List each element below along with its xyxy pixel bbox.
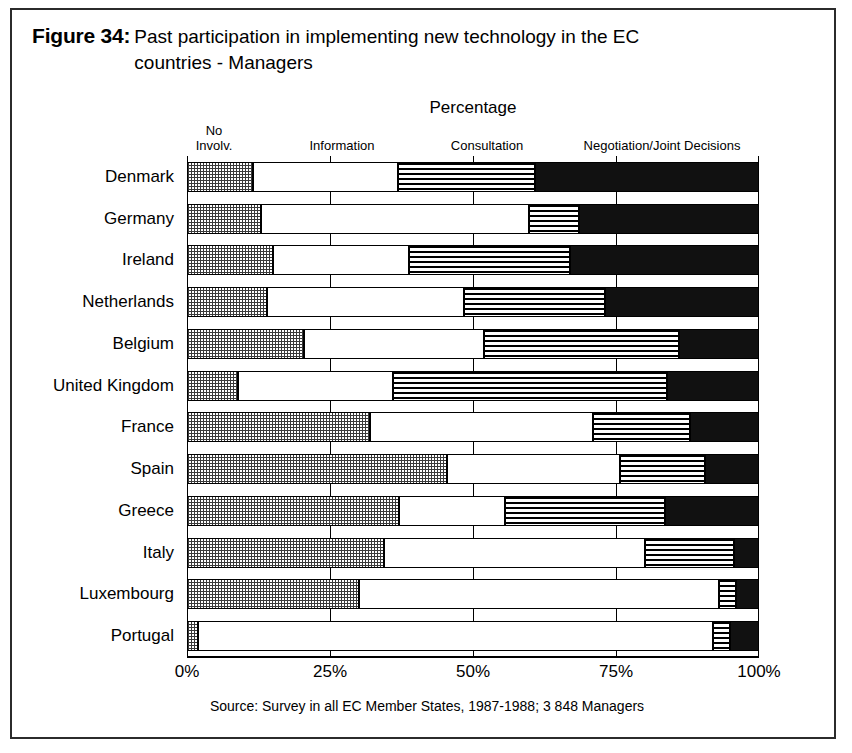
category-label: Belgium [113,329,174,359]
bar-segment-checkered[interactable] [187,162,253,192]
category-label: Netherlands [82,287,174,317]
legend: No Involv. Information Consultation Nego… [187,120,759,154]
category-label: Greece [118,496,174,526]
x-tick-label: 75% [581,662,651,682]
category-label: France [121,412,174,442]
bar-segment-checkered[interactable] [187,329,304,359]
bar-segment-checkered[interactable] [187,245,273,275]
bar-segment-solid-black[interactable] [734,538,759,568]
bar-segment-horizontal-stripes[interactable] [398,162,535,192]
bar-segment-solid-black[interactable] [605,287,759,317]
bar-segment-horizontal-stripes[interactable] [464,287,604,317]
bar-segment-white[interactable] [238,371,392,401]
source-note: Source: Survey in all EC Member States, … [32,698,822,714]
legend-item-information: Information [282,139,402,154]
category-label: Italy [143,538,174,568]
bar-row[interactable] [187,371,759,401]
bar-row[interactable] [187,329,759,359]
bar-segment-checkered[interactable] [187,621,198,651]
figure-frame: Figure 34: Past participation in impleme… [10,8,836,739]
bar-segment-white[interactable] [253,162,398,192]
bar-segment-checkered[interactable] [187,454,447,484]
x-tick-label: 25% [295,662,365,682]
bar-segment-solid-black[interactable] [570,245,759,275]
bar-segment-horizontal-stripes[interactable] [719,579,736,609]
bar-row[interactable] [187,412,759,442]
bar-segment-solid-black[interactable] [665,496,759,526]
bar-segment-horizontal-stripes[interactable] [713,621,730,651]
legend-item-consultation: Consultation [427,139,547,154]
bar-segment-horizontal-stripes[interactable] [505,496,665,526]
bar-segment-solid-black[interactable] [535,162,759,192]
bar-segment-horizontal-stripes[interactable] [593,412,690,442]
bar-segment-solid-black[interactable] [730,621,759,651]
bar-segment-horizontal-stripes[interactable] [484,329,678,359]
bar-segment-white[interactable] [384,538,645,568]
legend-item-negotiation: Negotiation/Joint Decisions [557,139,767,154]
bar-segment-solid-black[interactable] [667,371,759,401]
category-label: Denmark [105,162,174,192]
bar-segment-checkered[interactable] [187,412,370,442]
bar-segment-horizontal-stripes[interactable] [620,454,705,484]
bar-row[interactable] [187,454,759,484]
figure-number-label: Figure 34: [32,24,130,48]
category-axis-labels: DenmarkGermanyIrelandNetherlandsBelgiumU… [32,156,182,657]
bar-row[interactable] [187,538,759,568]
bar-row[interactable] [187,579,759,609]
bar-row[interactable] [187,204,759,234]
bar-segment-checkered[interactable] [187,204,261,234]
bar-row[interactable] [187,245,759,275]
category-label: United Kingdom [53,371,174,401]
bar-segment-white[interactable] [447,454,620,484]
bar-segment-white[interactable] [261,204,529,234]
bar-segment-solid-black[interactable] [736,579,759,609]
bar-segment-checkered[interactable] [187,538,384,568]
bar-segment-checkered[interactable] [187,287,267,317]
category-label: Ireland [122,245,174,275]
bar-segment-white[interactable] [273,245,409,275]
bar-row[interactable] [187,496,759,526]
legend-item-no-involv: No Involv. [187,124,241,154]
bar-segment-horizontal-stripes[interactable] [393,371,668,401]
bar-segment-horizontal-stripes[interactable] [529,204,579,234]
bar-segment-white[interactable] [267,287,464,317]
category-label: Germany [104,204,174,234]
bar-segment-solid-black[interactable] [679,329,759,359]
x-tick-label: 100% [724,662,794,682]
bar-row[interactable] [187,621,759,651]
bar-segment-solid-black[interactable] [705,454,759,484]
bar-segment-solid-black[interactable] [690,412,759,442]
bar-segment-white[interactable] [198,621,713,651]
bar-segment-checkered[interactable] [187,579,359,609]
bar-segment-white[interactable] [370,412,593,442]
bar-segment-white[interactable] [359,579,719,609]
bar-segment-solid-black[interactable] [579,204,759,234]
bar-segment-horizontal-stripes[interactable] [645,538,734,568]
bar-segment-white[interactable] [304,329,484,359]
category-label: Portugal [111,621,174,651]
bar-row[interactable] [187,287,759,317]
bar-row[interactable] [187,162,759,192]
x-tick-label: 50% [438,662,508,682]
x-tick-label: 0% [152,662,222,682]
plot-area [187,156,759,657]
bar-segment-checkered[interactable] [187,371,238,401]
bar-segment-horizontal-stripes[interactable] [409,245,570,275]
page-title: Past participation in implementing new t… [134,24,694,75]
x-axis-line [187,656,759,658]
chart-axis-title: Percentage [187,98,759,118]
figure-title-block: Figure 34: Past participation in impleme… [32,24,802,75]
x-axis-tick-labels: 0%25%50%75%100% [187,662,759,686]
bar-segment-checkered[interactable] [187,496,399,526]
category-label: Spain [131,454,174,484]
category-label: Luxembourg [79,579,174,609]
bar-segment-white[interactable] [399,496,505,526]
